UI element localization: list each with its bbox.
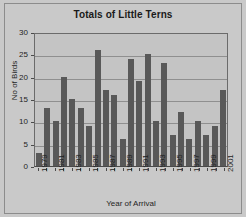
x-axis-tick-label: 2001 bbox=[227, 154, 235, 172]
x-axis-tick bbox=[224, 168, 225, 171]
x-axis-tick-label: 1985 bbox=[92, 154, 100, 172]
y-axis-tick-label: 25 bbox=[2, 51, 28, 59]
x-axis-tick bbox=[72, 168, 73, 171]
y-axis-tick-label: 0 bbox=[2, 163, 28, 171]
y-axis-tick-label: 5 bbox=[2, 141, 28, 149]
y-axis-tick-label: 20 bbox=[2, 74, 28, 82]
bar bbox=[61, 77, 67, 166]
bar bbox=[220, 90, 226, 166]
x-axis-tick-label: 1999 bbox=[210, 154, 218, 172]
y-axis-tick bbox=[31, 167, 34, 168]
x-axis-tick bbox=[139, 168, 140, 171]
x-axis-tick-label: 1983 bbox=[75, 154, 83, 172]
x-axis-tick bbox=[207, 168, 208, 171]
x-axis-tick-label: 1991 bbox=[142, 154, 150, 172]
plot-area bbox=[34, 33, 228, 167]
y-axis-tick-label: 10 bbox=[2, 118, 28, 126]
bar bbox=[95, 50, 101, 166]
bar-series bbox=[35, 34, 227, 166]
bar bbox=[145, 54, 151, 166]
bar bbox=[128, 59, 134, 166]
x-axis-tick bbox=[190, 168, 191, 171]
x-axis-tick bbox=[156, 168, 157, 171]
chart-figure: Totals of Little Terns No of Birds 05101… bbox=[0, 0, 246, 217]
x-axis-tick-label: 1995 bbox=[176, 154, 184, 172]
x-axis-tick bbox=[123, 168, 124, 171]
x-axis-title: Year of Arrival bbox=[34, 199, 228, 208]
x-axis-tick-label: 1981 bbox=[58, 154, 66, 172]
chart-title: Totals of Little Terns bbox=[0, 9, 246, 20]
x-axis-tick-label: 1997 bbox=[193, 154, 201, 172]
x-axis-tick-label: 1989 bbox=[126, 154, 134, 172]
x-axis-tick bbox=[173, 168, 174, 171]
x-axis-tick bbox=[55, 168, 56, 171]
x-axis-tick bbox=[89, 168, 90, 171]
x-axis-tick bbox=[106, 168, 107, 171]
x-axis-tick bbox=[38, 168, 39, 171]
y-axis-tick-label: 15 bbox=[2, 96, 28, 104]
bar bbox=[161, 63, 167, 166]
x-axis-tick-label: 1979 bbox=[41, 154, 49, 172]
x-axis-tick-label: 1993 bbox=[159, 154, 167, 172]
y-axis-tick-label: 30 bbox=[2, 29, 28, 37]
x-axis-tick-label: 1987 bbox=[109, 154, 117, 172]
